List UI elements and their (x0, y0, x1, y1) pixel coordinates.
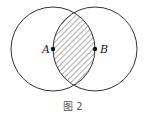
figure-caption: 图 2 (63, 101, 83, 112)
label-b: B (99, 43, 108, 56)
point-b (93, 47, 97, 51)
figure: A B 图 2 (0, 0, 145, 116)
venn-diagram: A B 图 2 (0, 0, 145, 116)
point-a (51, 47, 55, 51)
label-a: A (41, 43, 50, 56)
